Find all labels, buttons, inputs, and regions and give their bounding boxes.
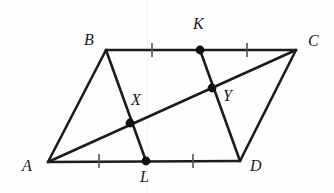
geometry-figure: ABCDKLXY bbox=[0, 0, 334, 193]
vertex-label-b: B bbox=[84, 32, 94, 48]
vertex-label-d: D bbox=[250, 158, 262, 174]
side-CD bbox=[240, 50, 296, 161]
geometry-canvas bbox=[0, 0, 334, 193]
point-x bbox=[126, 119, 135, 128]
point-k bbox=[196, 46, 205, 55]
vertex-label-c: C bbox=[308, 33, 319, 49]
point-label-l: L bbox=[140, 169, 149, 185]
cevian-KD bbox=[200, 50, 240, 161]
point-label-x: X bbox=[131, 92, 141, 108]
side-AB bbox=[48, 50, 106, 162]
point-label-k: K bbox=[193, 16, 204, 32]
point-y bbox=[208, 84, 217, 93]
point-l bbox=[142, 157, 151, 166]
segment-layer bbox=[48, 50, 296, 162]
vertex-label-a: A bbox=[22, 158, 32, 174]
diagonal-AC bbox=[48, 50, 296, 162]
point-label-y: Y bbox=[223, 88, 232, 104]
